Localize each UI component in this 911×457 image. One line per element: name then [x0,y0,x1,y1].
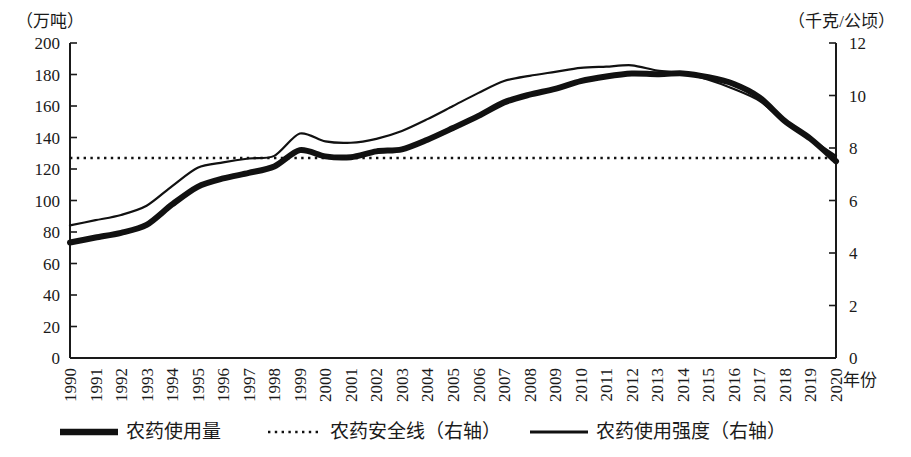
right-axis-unit-label: （千克/公顷） [788,12,895,31]
x-tick-label: 2010 [572,368,591,402]
x-tick-label: 2004 [418,368,437,403]
x-tick-label: 2015 [699,368,718,402]
x-tick-label: 1992 [112,368,131,402]
x-tick-label: 2018 [776,368,795,402]
x-tick-label: 2001 [342,368,361,402]
left-tick-label: 80 [43,223,60,242]
data-series-layer [70,65,836,242]
x-tick-label: 2012 [623,368,642,402]
x-tick-label: 2007 [495,368,514,403]
x-tick-label: 2013 [648,368,667,402]
x-tick-label: 2003 [393,368,412,402]
x-tick-label: 2016 [725,368,744,402]
left-tick-label: 0 [52,349,61,368]
right-tick-label: 8 [849,139,858,158]
x-tick-label: 2019 [801,368,820,402]
left-tick-label: 20 [43,318,60,337]
legend-item-label: 农药安全线（右轴） [330,421,501,442]
pesticide-use-line-chart: （万吨） （千克/公顷） 020406080100120140160180200… [0,0,911,457]
right-tick-label: 2 [849,297,858,316]
x-tick-label: 1997 [240,368,259,403]
chart-figure: （万吨） （千克/公顷） 020406080100120140160180200… [0,0,911,457]
x-tick-label: 2002 [367,368,386,402]
x-tick-label: 2008 [521,368,540,402]
x-tick-label: 2006 [470,368,489,402]
x-tick-label: 1995 [189,368,208,402]
right-tick-label: 6 [849,192,858,211]
right-tick-label: 4 [849,244,858,263]
right-tick-label: 0 [849,349,858,368]
left-tick-label: 120 [35,160,61,179]
x-tick-label: 2017 [750,368,769,403]
plot-frame [70,43,836,358]
x-tick-label: 2011 [597,368,616,401]
left-axis-unit-label: （万吨） [16,12,84,31]
x-tick-label: 1999 [291,368,310,402]
chart-legend: 农药使用量农药安全线（右轴）农药使用强度（右轴） [60,421,786,442]
left-tick-label: 180 [35,66,61,85]
x-axis-ticks: 1990199119921993199419951996199719981999… [61,368,846,403]
left-tick-label: 100 [35,192,61,211]
right-axis-ticks: 024681012 [829,34,866,368]
x-tick-label: 2000 [316,368,335,402]
left-tick-label: 160 [35,97,61,116]
right-tick-label: 10 [849,87,866,106]
x-tick-label: 1991 [87,368,106,402]
x-axis-title: 年份 [843,371,877,390]
left-tick-label: 200 [35,34,61,53]
x-tick-label: 1998 [265,368,284,402]
legend-item-label: 农药使用强度（右轴） [596,421,786,442]
left-tick-label: 140 [35,129,61,148]
series-line-pesticide-intensity [70,65,836,225]
left-tick-label: 60 [43,255,60,274]
x-tick-label: 1993 [138,368,157,402]
right-tick-label: 12 [849,34,866,53]
x-tick-label: 1990 [61,368,80,402]
x-tick-label: 2014 [674,368,693,403]
legend-item-label: 农药使用量 [126,421,221,442]
x-tick-label: 2009 [546,368,565,402]
x-tick-label: 2005 [444,368,463,402]
x-tick-label: 1996 [214,368,233,402]
x-tick-label: 1994 [163,368,182,403]
left-tick-label: 40 [43,286,60,305]
